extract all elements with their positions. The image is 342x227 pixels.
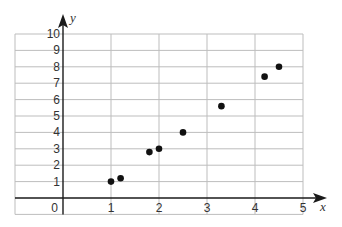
y-tick-label: 3 xyxy=(53,142,60,156)
data-point xyxy=(218,103,225,110)
y-tick-label: 5 xyxy=(53,109,60,123)
axes: x y xyxy=(15,10,327,214)
data-point xyxy=(108,178,115,185)
x-axis-label: x xyxy=(319,199,326,214)
y-tick-label: 1 xyxy=(53,175,60,189)
x-tick-label: 0 xyxy=(51,201,58,215)
data-point xyxy=(261,73,268,80)
y-axis-label: y xyxy=(68,10,76,25)
scatter-chart: x y 01234512345678910 xyxy=(0,0,342,227)
data-point xyxy=(276,64,283,71)
data-points xyxy=(108,64,283,185)
x-tick-label: 1 xyxy=(108,201,115,215)
data-point xyxy=(146,149,153,156)
x-tick-label: 4 xyxy=(252,201,259,215)
y-tick-label: 10 xyxy=(47,27,61,41)
data-point xyxy=(156,146,163,153)
y-tick-label: 8 xyxy=(53,60,60,74)
y-tick-label: 2 xyxy=(53,158,60,172)
y-tick-label: 4 xyxy=(53,125,60,139)
data-point xyxy=(117,175,124,182)
data-point xyxy=(180,129,187,136)
tick-labels: 01234512345678910 xyxy=(47,27,307,215)
x-tick-label: 2 xyxy=(156,201,163,215)
x-tick-label: 3 xyxy=(204,201,211,215)
y-tick-label: 9 xyxy=(53,43,60,57)
y-tick-label: 7 xyxy=(53,76,60,90)
y-tick-label: 6 xyxy=(53,93,60,107)
x-tick-label: 5 xyxy=(300,201,307,215)
